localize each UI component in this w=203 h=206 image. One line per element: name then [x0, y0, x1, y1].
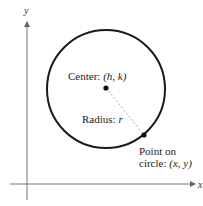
- circle-diagram: y x Center: (h, k) Radius: r Point on ci…: [0, 0, 203, 206]
- center-label: Center: (h, k): [68, 70, 127, 83]
- radius-line: [106, 88, 144, 135]
- radius-label: Radius: r: [82, 113, 123, 125]
- circle-point: [141, 132, 146, 137]
- point-label-line2: circle: (x, y): [139, 157, 192, 170]
- y-axis-label: y: [23, 5, 29, 16]
- point-label-line1: Point on: [139, 145, 176, 157]
- center-point: [103, 85, 108, 90]
- x-axis-label: x: [197, 179, 203, 190]
